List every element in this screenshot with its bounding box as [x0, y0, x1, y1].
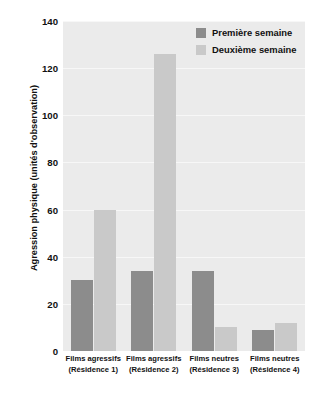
legend-label: Deuxième semaine	[212, 44, 296, 55]
x-tick-label: Films neutres(Résidence 3)	[190, 354, 239, 375]
x-tick-label-line2: (Résidence 4)	[250, 365, 299, 376]
x-tick-label: Films agressifs(Résidence 1)	[66, 354, 121, 375]
legend-swatch	[196, 45, 206, 55]
y-tick-label: 40	[26, 251, 58, 262]
x-tick-label-line1: Films neutres	[190, 354, 239, 363]
bar	[192, 271, 214, 351]
bar	[131, 271, 153, 351]
bar	[94, 210, 116, 351]
bar	[252, 330, 274, 351]
y-tick-label: 120	[26, 63, 58, 74]
y-tick-label: 0	[26, 346, 58, 357]
x-tick-label-line1: Films neutres	[250, 354, 299, 363]
y-axis-tick-labels: 020406080100120140	[26, 0, 58, 409]
y-tick-label: 60	[26, 204, 58, 215]
x-tick-label: Films neutres(Résidence 4)	[250, 354, 299, 375]
y-tick-label: 20	[26, 298, 58, 309]
bar	[275, 323, 297, 351]
x-tick-label-line1: Films agressifs	[66, 354, 121, 363]
y-tick-label: 80	[26, 157, 58, 168]
legend-item: Deuxième semaine	[196, 44, 296, 55]
bars-layer	[63, 21, 305, 351]
bar	[154, 54, 176, 351]
bar	[215, 327, 237, 351]
x-tick-label-line2: (Résidence 2)	[126, 365, 181, 376]
x-tick-label-line2: (Résidence 3)	[190, 365, 239, 376]
x-tick-label-line1: Films agressifs	[126, 354, 181, 363]
bar-chart: Agression physique (unités d'observation…	[0, 0, 322, 409]
bar	[71, 280, 93, 351]
plot-area	[63, 21, 305, 351]
y-tick-label: 100	[26, 110, 58, 121]
x-tick-label: Films agressifs(Résidence 2)	[126, 354, 181, 375]
x-axis-tick-labels: Films agressifs(Résidence 1)Films agress…	[63, 354, 305, 394]
legend: Première semaineDeuxième semaine	[196, 27, 296, 55]
x-tick-label-line2: (Résidence 1)	[66, 365, 121, 376]
legend-swatch	[196, 28, 206, 38]
legend-label: Première semaine	[212, 27, 292, 38]
y-tick-label: 140	[26, 16, 58, 27]
legend-item: Première semaine	[196, 27, 296, 38]
